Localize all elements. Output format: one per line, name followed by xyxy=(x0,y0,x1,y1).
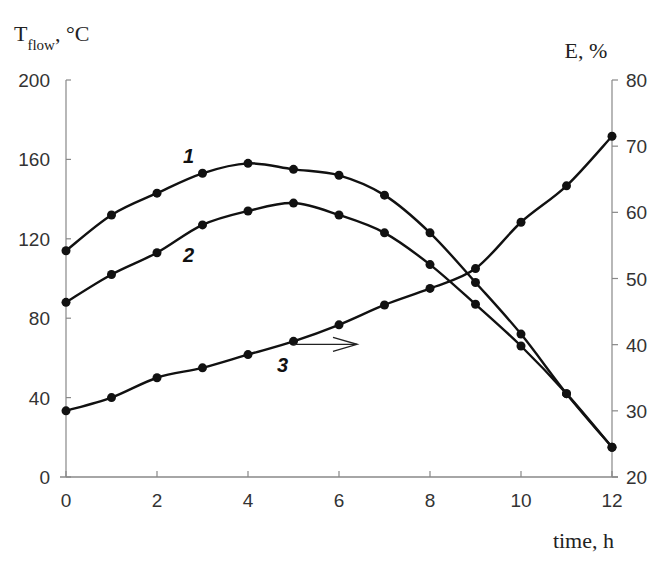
data-point xyxy=(426,284,435,293)
data-point xyxy=(608,443,617,452)
right-tick-label: 30 xyxy=(626,401,647,422)
data-point xyxy=(153,373,162,382)
data-point xyxy=(335,171,344,180)
labels-group: Tflow, °CE, %time, h123 xyxy=(14,21,614,553)
data-point xyxy=(244,159,253,168)
data-point xyxy=(153,248,162,257)
data-point xyxy=(62,298,71,307)
data-point xyxy=(426,228,435,237)
data-point xyxy=(244,350,253,359)
x-tick-label: 4 xyxy=(243,490,254,511)
x-tick-label: 0 xyxy=(61,490,72,511)
data-point xyxy=(517,341,526,350)
data-point xyxy=(62,246,71,255)
data-point xyxy=(335,210,344,219)
data-point xyxy=(289,165,298,174)
x-axis-title: time, h xyxy=(553,528,614,553)
right-tick-label: 80 xyxy=(626,70,647,91)
series-line-1 xyxy=(66,163,612,447)
x-tick-label: 6 xyxy=(334,490,345,511)
right-tick-label: 20 xyxy=(626,467,647,488)
data-point xyxy=(380,300,389,309)
data-point xyxy=(562,181,571,190)
x-tick-label: 12 xyxy=(601,490,622,511)
data-point xyxy=(471,264,480,273)
data-point xyxy=(107,210,116,219)
data-point xyxy=(608,132,617,141)
left-tick-label: 120 xyxy=(18,229,50,250)
left-axis-title: Tflow, °C xyxy=(14,21,89,53)
data-point xyxy=(198,220,207,229)
data-point xyxy=(471,278,480,287)
left-tick-label: 40 xyxy=(29,388,50,409)
x-tick-label: 10 xyxy=(510,490,531,511)
curve-label-1: 1 xyxy=(183,145,194,167)
data-point xyxy=(380,228,389,237)
data-point xyxy=(198,169,207,178)
data-point xyxy=(62,406,71,415)
curve-label-3: 3 xyxy=(277,354,288,376)
data-point xyxy=(289,199,298,208)
data-point xyxy=(426,260,435,269)
data-point xyxy=(107,270,116,279)
x-tick-label: 8 xyxy=(425,490,436,511)
data-point xyxy=(107,393,116,402)
left-tick-label: 200 xyxy=(18,70,50,91)
left-tick-label: 80 xyxy=(29,308,50,329)
data-point xyxy=(335,320,344,329)
right-tick-label: 40 xyxy=(626,335,647,356)
data-point xyxy=(198,363,207,372)
data-point xyxy=(380,191,389,200)
left-tick-label: 160 xyxy=(18,149,50,170)
data-point xyxy=(153,189,162,198)
curve-label-2: 2 xyxy=(182,244,194,266)
series-group xyxy=(62,132,617,452)
right-tick-label: 50 xyxy=(626,269,647,290)
data-point xyxy=(517,218,526,227)
right-tick-label: 60 xyxy=(626,202,647,223)
axes: 0408012016020020304050607080024681012 xyxy=(18,70,647,511)
right-axis-title: E, % xyxy=(565,38,608,63)
x-tick-label: 2 xyxy=(152,490,163,511)
left-tick-label: 0 xyxy=(39,467,50,488)
data-point xyxy=(562,389,571,398)
data-point xyxy=(471,300,480,309)
right-tick-label: 70 xyxy=(626,136,647,157)
chart-canvas: 0408012016020020304050607080024681012 Tf… xyxy=(0,0,660,561)
data-point xyxy=(517,330,526,339)
data-point xyxy=(244,207,253,216)
